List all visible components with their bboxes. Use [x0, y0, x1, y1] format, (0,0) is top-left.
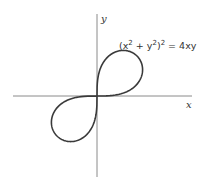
- y-axis-label: y: [100, 13, 107, 24]
- lemniscate-diagram: y x (x2 + y2)2 = 4xy: [0, 0, 201, 185]
- equation-label: (x2 + y2)2 = 4xy: [119, 39, 197, 51]
- x-axis-label: x: [186, 99, 192, 110]
